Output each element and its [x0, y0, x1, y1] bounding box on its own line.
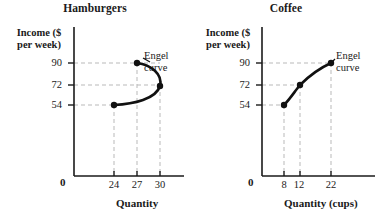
plot-area-coffee [191, 0, 381, 221]
data-point-22-90-coffee [328, 60, 334, 66]
data-point-8-54-coffee [281, 102, 287, 108]
data-point-24-54-hamburgers [111, 102, 117, 108]
chart-panel-hamburgers: Hamburgers Income ($ per week) 90 72 54 … [0, 0, 190, 221]
engel-curve-figure: Hamburgers Income ($ per week) 90 72 54 … [0, 0, 381, 221]
data-point-12-72-coffee [297, 82, 303, 88]
annotation-leader-hamburgers [143, 58, 150, 62]
data-point-30-72-hamburgers [157, 83, 163, 89]
chart-panel-coffee: Coffee Income ($ per week) 90 72 54 0 8 … [191, 0, 381, 221]
data-point-27-90-hamburgers [134, 60, 140, 66]
engel-curve-path-coffee [284, 63, 331, 105]
plot-area-hamburgers [0, 0, 190, 221]
